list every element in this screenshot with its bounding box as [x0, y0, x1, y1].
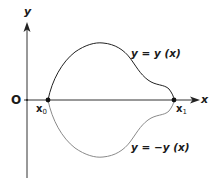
point-x1: [172, 98, 177, 103]
point-x0: [46, 98, 51, 103]
diagram-canvas: [0, 0, 221, 191]
y-axis-label: y: [24, 6, 31, 17]
lower-curve-label: y = −y (x): [131, 142, 190, 153]
x0-label-sub: 0: [42, 108, 46, 116]
origin-label: O: [11, 94, 21, 106]
x1-label-sub: 1: [182, 108, 186, 116]
upper-curve-label: y = y (x): [131, 48, 181, 59]
symmetric-curve-diagram: y x O x0 x1 y = y (x) y = −y (x): [0, 0, 221, 191]
x1-label: x1: [176, 104, 187, 114]
x0-label: x0: [36, 104, 47, 114]
x-axis-label: x: [201, 94, 208, 105]
origin-point: [26, 99, 28, 101]
